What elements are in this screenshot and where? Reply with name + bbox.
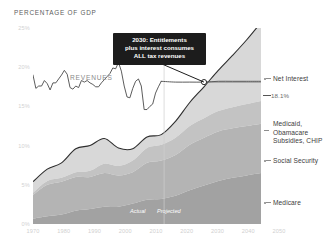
crossover-callout: 2030: Entitlements plus interest consume… xyxy=(113,33,206,65)
legend-label-medicaid: Medicaid, Obamacare Subsidies, CHIP xyxy=(273,120,323,146)
legend-value-label: 18.1% xyxy=(271,92,289,100)
x-tick-1980: 1980 xyxy=(57,228,70,234)
legend-tick-value xyxy=(263,95,271,96)
legend: Net Interest 18.1% Medicaid, Obamacare S… xyxy=(262,0,325,250)
chart-root: PERCENTAGE OF GDP 25% 20% 15% 10% 5% 0% xyxy=(0,0,325,250)
legend-tick-medicaid xyxy=(264,130,269,131)
y-tick-20: 20% xyxy=(18,64,30,70)
callout-line-2: plus interest consumes xyxy=(116,44,203,52)
y-tick-15: 15% xyxy=(18,103,30,109)
actual-label: Actual xyxy=(130,208,146,214)
legend-tick-social-security xyxy=(266,160,271,161)
x-tick-2020: 2020 xyxy=(180,228,193,234)
legend-tick-medicare xyxy=(266,202,271,203)
x-tick-2010: 2010 xyxy=(149,228,162,234)
x-axis: 1970 1980 1990 2000 2010 2020 2030 2040 … xyxy=(33,228,279,242)
x-tick-2000: 2000 xyxy=(119,228,132,234)
y-tick-25: 25% xyxy=(18,25,30,31)
y-tick-5: 5% xyxy=(22,182,31,188)
x-tick-1970: 1970 xyxy=(26,228,39,234)
legend-label-social-security: Social Security xyxy=(273,157,318,166)
callout-line-3: ALL tax revenues xyxy=(116,52,203,60)
legend-tick-net-interest xyxy=(266,78,271,79)
projected-label: Projected xyxy=(157,208,181,214)
legend-label-net-interest: Net Interest xyxy=(273,75,308,84)
x-tick-2030: 2030 xyxy=(211,228,224,234)
legend-label-medicare: Medicare xyxy=(273,199,301,208)
revenues-inline-label: REVENUES xyxy=(70,74,113,81)
callout-line-1: 2030: Entitlements xyxy=(116,36,203,44)
y-axis: 25% 20% 15% 10% 5% 0% xyxy=(0,28,30,224)
y-tick-10: 10% xyxy=(18,143,30,149)
page-title: PERCENTAGE OF GDP xyxy=(14,9,97,16)
y-tick-0: 0% xyxy=(22,221,31,227)
x-tick-2040: 2040 xyxy=(242,228,255,234)
x-tick-1990: 1990 xyxy=(88,228,101,234)
